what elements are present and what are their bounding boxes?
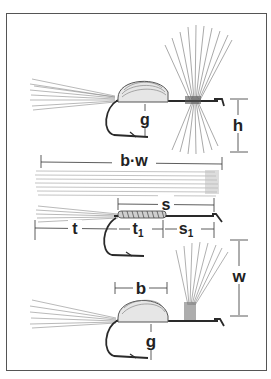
bottom-body-dimension: b (115, 279, 167, 298)
shank-dimension-s: s (118, 195, 214, 213)
top-gap-dimension: g (138, 104, 152, 136)
label-g-top: g (140, 111, 150, 128)
eye-dimension-s1: s1 (165, 220, 214, 239)
label-g-bottom: g (146, 332, 156, 351)
top-height-dimension: h (230, 99, 248, 152)
label-t: t (72, 220, 78, 237)
bottom-fly-illustration (30, 242, 228, 358)
wing-height-dimension: w (229, 240, 249, 316)
fly-proportions-diagram: g h b·w s (0, 0, 271, 379)
label-b: b (136, 279, 146, 298)
body-dimension-t1: t1 (119, 220, 163, 239)
top-fly-illustration (30, 25, 232, 154)
label-h: h (233, 116, 243, 135)
label-s: s (162, 196, 171, 213)
bottom-gap-dimension: g (143, 324, 159, 360)
label-bw: b·w (120, 152, 148, 169)
label-w: w (231, 267, 246, 286)
hackle-span-dimension: b·w (41, 150, 222, 170)
hackle-feather (35, 170, 219, 196)
